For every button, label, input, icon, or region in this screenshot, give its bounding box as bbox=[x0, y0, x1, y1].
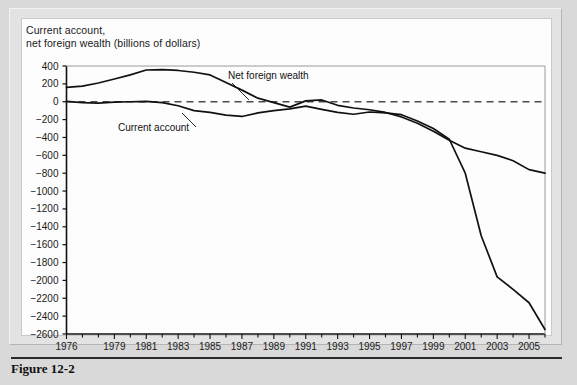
chart-title: Current account,net foreign wealth (bill… bbox=[26, 24, 200, 50]
figure-caption: Figure 12-2 bbox=[11, 361, 75, 377]
chart-title-line1: Current account, bbox=[26, 24, 105, 36]
caption-divider bbox=[11, 357, 562, 359]
figure-plot-card bbox=[21, 18, 552, 336]
figure-panel bbox=[9, 8, 562, 345]
chart-title-line2: net foreign wealth (billions of dollars) bbox=[26, 37, 200, 49]
